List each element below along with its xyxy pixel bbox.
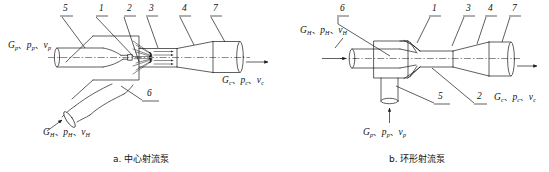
b-part-number-2: 2 <box>477 92 482 102</box>
b-inlet-suction-flow-label: GH、pH、vH <box>300 26 347 36</box>
a-inlet-primary-G-sub: p <box>15 45 18 51</box>
sep-icon: 、 <box>330 26 339 35</box>
b-inlet-primary-G-sub: p <box>370 132 373 138</box>
a-suction-chamber <box>66 36 139 99</box>
b-inlet-primary-G: G <box>363 127 370 137</box>
b-outlet-G: G <box>494 92 501 102</box>
a-outlet-flow-label: Gc、pc、vc <box>222 76 264 86</box>
sep-icon: 、 <box>311 26 320 35</box>
b-part-number-7: 7 <box>512 4 517 14</box>
a-inlet-primary-p-sub: p <box>32 45 35 51</box>
a-part-number-6: 6 <box>147 89 152 99</box>
a-part-number-3: 3 <box>149 4 154 14</box>
b-inlet-primary-v-sub: p <box>403 132 406 138</box>
b-throat-tube <box>420 51 453 67</box>
b-part-number-1: 1 <box>432 4 437 14</box>
a-inlet-primary-flow-label: Gp、pp、vp <box>8 41 51 51</box>
b-outlet-G-sub: c <box>501 97 504 103</box>
b-outlet-pipe <box>489 42 514 76</box>
a-outlet-p-sub: c <box>245 80 248 86</box>
a-outlet-G-sub: c <box>229 80 232 86</box>
b-part-number-5: 5 <box>438 92 443 102</box>
sep-icon: 、 <box>373 128 382 137</box>
b-diffuser <box>453 42 489 76</box>
b-pump-body <box>374 41 408 78</box>
sep-icon: 、 <box>520 93 529 102</box>
b-primary-inlet-pipe <box>381 78 398 104</box>
diagram-b-caption: b. 环形射流泵 <box>389 155 445 164</box>
b-annular-nozzle <box>400 41 420 79</box>
a-inlet-suction-v-sub: H <box>86 132 91 138</box>
sep-icon: 、 <box>73 128 82 137</box>
b-inlet-suction-G: G <box>300 25 307 35</box>
a-inlet-suction-G-sub: H <box>50 132 55 138</box>
diagram-a-caption: a. 中心射流泵 <box>113 155 169 164</box>
b-inlet-suction-v-sub: H <box>343 30 348 36</box>
a-inlet-suction-p-sub: H <box>68 132 73 138</box>
a-inlet-primary-G: G <box>8 40 15 50</box>
a-part-number-7: 7 <box>213 4 218 14</box>
a-part-number-5: 5 <box>63 4 68 14</box>
a-outlet-G: G <box>222 75 229 85</box>
b-outlet-p-sub: c <box>517 97 520 103</box>
a-part-number-2: 2 <box>127 4 132 14</box>
b-inlet-suction-v: v <box>338 25 342 35</box>
a-inlet-suction-v: v <box>81 127 85 137</box>
a-inlet-primary-p: p <box>27 40 32 50</box>
a-outlet-pipe <box>213 42 243 73</box>
sep-icon: 、 <box>18 41 27 50</box>
a-part-number-1: 1 <box>99 4 104 14</box>
a-suction-inlet-pipe <box>62 84 133 129</box>
b-inlet-primary-p: p <box>382 127 387 137</box>
sep-icon: 、 <box>54 128 63 137</box>
b-part-number-6: 6 <box>340 4 345 14</box>
diagram-vector-layer <box>0 0 549 172</box>
a-inlet-suction-flow-label: GH、pH、vH <box>43 128 90 138</box>
sep-icon: 、 <box>35 41 44 50</box>
b-outlet-v-sub: c <box>533 97 536 103</box>
diagram-a-geometry <box>47 16 268 131</box>
b-leader-lines <box>337 16 521 104</box>
a-outlet-v-sub: c <box>261 80 264 86</box>
b-left-label-tick <box>335 38 343 48</box>
b-inlet-primary-p-sub: p <box>387 132 390 138</box>
sep-icon: 、 <box>390 128 399 137</box>
sep-icon: 、 <box>248 76 257 85</box>
a-inlet-primary-v-sub: p <box>48 45 51 51</box>
a-part-number-4: 4 <box>182 4 187 14</box>
b-inlet-suction-p-sub: H <box>325 30 330 36</box>
a-diffuser <box>177 42 213 73</box>
diagram-b-geometry <box>322 16 537 123</box>
b-outlet-flow-label: Gc、pc、vc <box>494 93 536 103</box>
b-part-number-4: 4 <box>488 4 493 14</box>
b-part-number-3: 3 <box>466 4 471 14</box>
figure-root: 5 1 2 3 4 7 6 Gp、pp、vp GH、pH、vH Gc、pc、vc… <box>0 0 549 172</box>
b-inlet-primary-flow-label: Gp、pp、vp <box>363 128 406 138</box>
a-inlet-suction-G: G <box>43 127 50 137</box>
b-inlet-suction-G-sub: H <box>307 30 312 36</box>
